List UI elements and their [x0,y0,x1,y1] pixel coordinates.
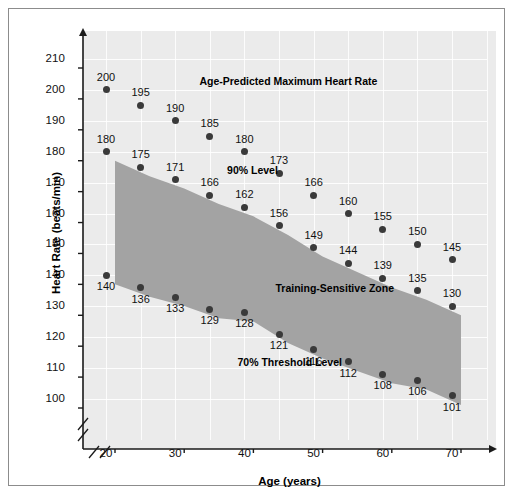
data-point [345,210,352,217]
data-point-label: 136 [124,293,158,305]
data-point [137,102,144,109]
y-axis-title: Heart Rate (beats/min) [50,148,62,318]
data-point-label: 128 [227,317,261,329]
data-point [206,192,213,199]
data-point-label: 200 [89,71,123,83]
data-point-label: 101 [435,401,469,413]
data-point-label: 195 [124,86,158,98]
data-point-label: 108 [366,379,400,391]
data-point-label: 139 [366,259,400,271]
data-point-label: 121 [262,339,296,351]
data-point [449,392,456,399]
data-point-label: 171 [158,161,192,173]
data-point-label: 160 [331,195,365,207]
data-point [241,309,248,316]
data-point-label: 190 [158,102,192,114]
data-point-label: 149 [297,229,331,241]
data-point-label: 129 [193,314,227,326]
data-point [414,377,421,384]
data-point [241,204,248,211]
x-tick-label: 50 [294,447,334,459]
x-tick-label: 70 [432,447,472,459]
x-tick-label: 40 [224,447,264,459]
data-point-label: 166 [193,176,227,188]
data-point-label: 162 [227,188,261,200]
data-point-label: 175 [124,148,158,160]
data-point [345,260,352,267]
figure-root: 100110120130140150160170180190200210 203… [0,0,515,496]
data-point-label: 180 [89,133,123,145]
y-axis-title-wrapper: Heart Rate (beats/min) [31,9,51,449]
data-point-label: 145 [435,241,469,253]
chart-annotation: 70% Threshold Level [237,356,341,368]
data-point [449,303,456,310]
data-point [103,86,110,93]
data-point-label: 185 [193,117,227,129]
chart-annotation: Age-Predicted Maximum Heart Rate [199,75,377,87]
data-point-label: 130 [435,287,469,299]
data-point [103,148,110,155]
x-tick-label: 30 [155,447,195,459]
x-tick-label: 20 [86,447,126,459]
figure-frame: 100110120130140150160170180190200210 203… [8,8,505,486]
data-point [172,117,179,124]
data-point [449,256,456,263]
data-point [414,241,421,248]
data-point-label: 155 [366,210,400,222]
data-point [172,294,179,301]
data-point [310,192,317,199]
data-point-label: 180 [227,133,261,145]
data-point [379,226,386,233]
data-point-label: 140 [89,280,123,292]
x-axis-title: Age (years) [83,475,496,487]
data-point-label: 106 [400,385,434,397]
data-point-label: 133 [158,302,192,314]
chart-annotation: 90% Level [227,164,278,176]
chart-annotation: Training-Sensitive Zone [276,282,394,294]
data-point-label: 166 [297,176,331,188]
data-point-label: 135 [400,272,434,284]
data-point [276,331,283,338]
data-point [137,164,144,171]
data-point-label: 150 [400,225,434,237]
data-point [103,272,110,279]
data-point-label: 144 [331,244,365,256]
data-point [276,222,283,229]
x-tick-label: 60 [363,447,403,459]
data-point-label: 156 [262,207,296,219]
data-point-label: 112 [331,367,365,379]
data-point [172,176,179,183]
y-axis-arrowhead [79,28,87,36]
x-axis-arrowhead [489,445,497,453]
